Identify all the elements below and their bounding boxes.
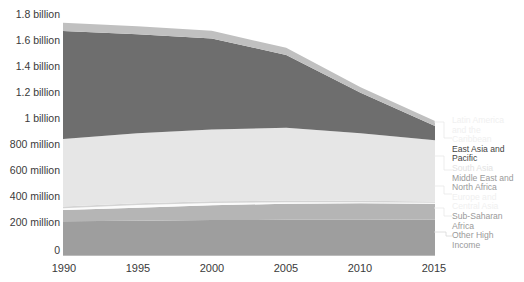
y-axis-tick-label: 1.4 billion [0,60,60,72]
chart-legend: Latin Americaand theCaribbeanEast Asia a… [452,116,524,250]
area-band [63,128,435,207]
y-axis-tick-label: 1.2 billion [0,86,60,98]
chart-root: 1.8 billion1.6 billion1.4 billion1.2 bil… [0,0,524,282]
y-axis-tick-label: 1.6 billion [0,34,60,46]
x-axis-tick-label: 2010 [340,262,380,275]
x-axis-tick-label: 1990 [44,262,84,275]
y-axis-tick-label: 1.8 billion [0,8,60,20]
y-axis-tick-label: 200 million [0,216,60,228]
stacked-area-svg [63,0,435,282]
y-axis: 1.8 billion1.6 billion1.4 billion1.2 bil… [0,0,60,282]
y-axis-tick-label: 1 billion [0,112,60,124]
area-band [63,31,435,140]
plot-area [63,0,435,282]
y-axis-tick-label: 400 million [0,190,60,202]
y-axis-tick-label: 600 million [0,164,60,176]
x-axis-tick-label: 2005 [266,262,306,275]
y-axis-tick-label: 0 [0,244,60,256]
area-band [63,220,435,256]
x-axis-tick-label: 2015 [414,262,454,275]
y-axis-tick-label: 800 million [0,138,60,150]
legend-entry: Income [452,241,524,251]
x-axis-tick-label: 1995 [118,262,158,275]
x-axis-tick-label: 2000 [192,262,232,275]
